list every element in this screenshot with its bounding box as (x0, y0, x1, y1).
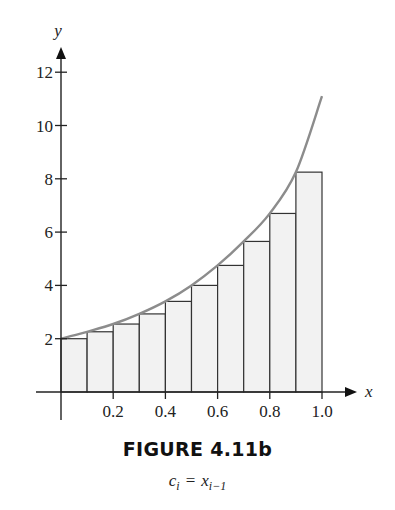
x-axis-arrow-icon (345, 387, 357, 397)
bar (296, 172, 322, 392)
x-tick-label: 0.4 (155, 402, 177, 421)
equals-sign: = (186, 471, 196, 490)
bar (113, 324, 139, 392)
bar (139, 314, 165, 392)
y-tick-label: 12 (36, 63, 53, 82)
bar (165, 301, 191, 392)
y-tick-label: 2 (45, 330, 54, 349)
figure-subtitle: ci=xi−1 (0, 471, 395, 494)
bar (270, 213, 296, 392)
x-symbol: x (201, 471, 209, 490)
bar (192, 285, 218, 392)
c-subscript: i (176, 479, 179, 493)
bar (218, 265, 244, 392)
riemann-sum-chart: 0.20.40.60.81.024681012xy (0, 0, 395, 430)
bar (244, 241, 270, 392)
bar (61, 339, 87, 392)
y-axis-label: y (52, 21, 62, 40)
bars (61, 172, 322, 392)
x-axis-label: x (364, 382, 373, 401)
bar (87, 332, 113, 392)
x-tick-label: 1.0 (311, 402, 332, 421)
x-subscript: i−1 (209, 479, 226, 493)
y-tick-label: 8 (45, 170, 54, 189)
x-tick-label: 0.6 (207, 402, 228, 421)
y-tick-label: 10 (36, 117, 53, 136)
x-tick-label: 0.2 (103, 402, 124, 421)
y-tick-label: 4 (45, 276, 54, 295)
y-axis-arrow-icon (56, 47, 66, 59)
figure-title: FIGURE 4.11b (0, 438, 395, 460)
y-tick-label: 6 (45, 223, 54, 242)
x-tick-label: 0.8 (259, 402, 280, 421)
